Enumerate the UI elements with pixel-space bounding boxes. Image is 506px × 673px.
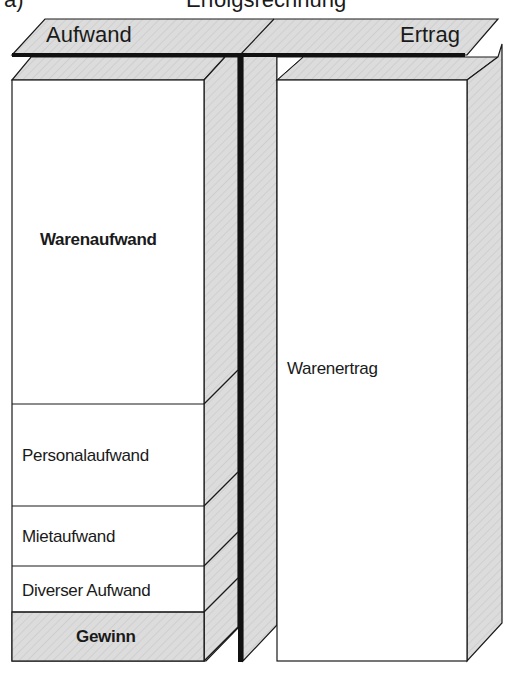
section-warenaufwand: Warenaufwand [40,230,157,250]
section-mietaufwand: Mietaufwand [22,527,115,547]
header-aufwand-label: Aufwand [46,22,132,48]
aufwand-box [12,57,238,661]
header-ertrag-label: Ertrag [400,22,460,48]
section-personalaufwand: Personalaufwand [22,446,149,466]
section-warenertrag: Warenertrag [287,359,378,379]
title-letter: a) [4,0,24,13]
ertrag-box [277,44,502,661]
section-gewinn: Gewinn [76,627,136,647]
section-diverser-aufwand: Diverser Aufwand [22,581,150,601]
title-text: Erfolgsrechnung [186,0,346,13]
divider-plane [243,56,277,661]
t-account-diagram [0,0,506,673]
